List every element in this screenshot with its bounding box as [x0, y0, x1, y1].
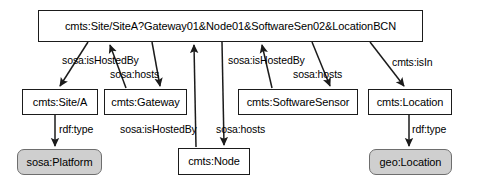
node-site[interactable]: cmts:Site/A	[22, 89, 98, 115]
node-softwaresensor[interactable]: cmts:SoftwareSensor	[238, 89, 358, 115]
node-geo-location[interactable]: geo:Location	[369, 149, 452, 175]
node-gateway[interactable]: cmts:Gateway	[104, 89, 187, 115]
node-node-label: cmts:Node	[188, 156, 240, 167]
rdf-graph-diagram: cmts:Site/SiteA?Gateway01&Node01&Softwar…	[0, 0, 478, 184]
node-site-label: cmts:Site/A	[33, 97, 88, 108]
node-sosa-platform-label: sosa:Platform	[27, 157, 93, 168]
edge-label-softwaresensor-is-hosted-by: sosa:isHostedBy	[228, 55, 305, 66]
edge-label-node-is-hosted-by: sosa:isHostedBy	[120, 124, 197, 135]
edge-softwaresensor-to-root	[262, 45, 272, 88]
node-root-label: cmts:Site/SiteA?Gateway01&Node01&Softwar…	[65, 21, 396, 32]
node-geo-location-label: geo:Location	[380, 157, 442, 168]
node-softwaresensor-label: cmts:SoftwareSensor	[247, 97, 350, 108]
node-sosa-platform[interactable]: sosa:Platform	[17, 149, 102, 175]
node-location-label: cmts:Location	[377, 97, 444, 108]
edge-gateway-to-root	[110, 45, 126, 88]
node-location[interactable]: cmts:Location	[368, 89, 452, 115]
edge-label-root-is-in-location: cmts:isIn	[392, 57, 433, 68]
edge-label-location-rdf-type: rdf:type	[412, 124, 446, 135]
edge-label-site-rdf-type: rdf:type	[59, 124, 93, 135]
node-root[interactable]: cmts:Site/SiteA?Gateway01&Node01&Softwar…	[38, 10, 423, 42]
edge-label-gateway-is-hosted-by: sosa:isHostedBy	[62, 55, 139, 66]
edge-label-root-hosts-gateway: sosa:hosts	[110, 69, 159, 80]
edge-label-root-hosts-node: sosa:hosts	[216, 124, 265, 135]
edge-label-root-hosts-softwaresensor: sosa:hosts	[293, 69, 342, 80]
node-node[interactable]: cmts:Node	[178, 148, 250, 175]
node-gateway-label: cmts:Gateway	[111, 97, 180, 108]
